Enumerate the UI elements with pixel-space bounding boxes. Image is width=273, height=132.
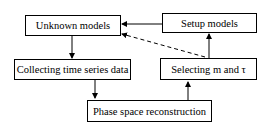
node-phase-space: Phase space reconstruction bbox=[87, 100, 212, 122]
node-label: Selecting m and τ bbox=[171, 64, 246, 75]
node-label: Collecting time series data bbox=[17, 64, 129, 75]
node-selecting-params: Selecting m and τ bbox=[160, 58, 257, 80]
node-collecting-data: Collecting time series data bbox=[14, 59, 131, 80]
node-unknown-models: Unknown models bbox=[25, 15, 121, 36]
node-label: Setup models bbox=[181, 18, 238, 29]
node-label: Phase space reconstruction bbox=[93, 106, 206, 117]
node-label: Unknown models bbox=[36, 20, 110, 31]
node-setup-models: Setup models bbox=[162, 13, 257, 33]
edge-select-unknown-dashed bbox=[122, 34, 205, 57]
